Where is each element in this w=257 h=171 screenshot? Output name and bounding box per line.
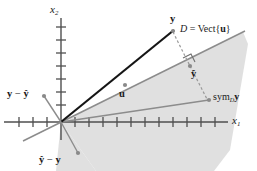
point-y (171, 29, 175, 33)
label-sym-d-y: symDy (213, 92, 239, 103)
label-y-hat: ŷ (191, 69, 196, 80)
label-y-minus-yhat: y − ŷ (7, 89, 29, 100)
label-yhat-minus-y: ŷ − y (39, 155, 61, 166)
axis-label-x1: x1 (232, 115, 240, 128)
label-vector-y: y (170, 14, 175, 25)
vector-geometry-figure: x2 x1 y ŷ u D = Vect{u} symDy y − ŷ ŷ − … (0, 0, 257, 171)
point-y-minus-yhat (42, 94, 46, 98)
axis-label-x2: x2 (50, 4, 58, 17)
point-yhat-minus-y (76, 151, 80, 155)
point-u (123, 83, 127, 87)
label-line-D: D = Vect{u} (180, 24, 231, 34)
label-vector-u: u (119, 89, 125, 100)
point-sym-d-y (207, 98, 211, 102)
